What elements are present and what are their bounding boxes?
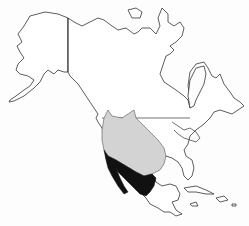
hispaniola-island bbox=[216, 196, 228, 202]
north-america-map bbox=[0, 0, 249, 226]
mainland-north-america bbox=[68, 8, 244, 216]
jamaica-island bbox=[190, 202, 198, 206]
puerto-rico-island bbox=[232, 204, 236, 206]
arctic-island bbox=[128, 8, 142, 18]
alaska-landmass bbox=[9, 12, 68, 102]
range-map: Range map of a species in North America bbox=[0, 0, 249, 226]
cuba-island bbox=[184, 186, 214, 194]
